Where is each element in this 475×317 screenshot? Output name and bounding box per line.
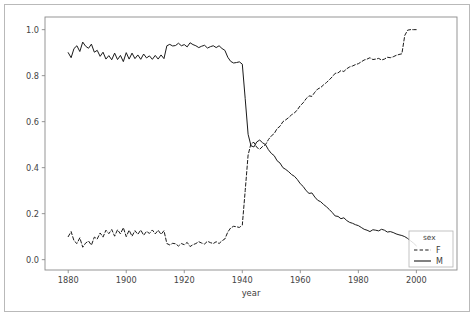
legend-label-f[interactable]: F [436,246,441,255]
chart-figure: 18801900192019401960198020000.00.20.40.6… [0,0,475,317]
legend-label-m[interactable]: M [436,257,443,266]
x-tick-label: 1940 [232,275,253,285]
x-tick-label: 1960 [290,275,311,285]
x-axis-title: year [242,288,261,298]
y-tick-label: 0.6 [26,117,39,127]
x-tick-label: 1900 [116,275,137,285]
series-line-f [68,30,416,248]
series-line-m [68,42,416,246]
y-tick-label: 0.0 [26,255,39,265]
x-tick-label: 1880 [58,275,79,285]
x-tick-label: 2000 [406,275,427,285]
y-tick-label: 0.2 [26,209,39,219]
y-tick-label: 0.4 [26,163,39,173]
line-chart: 18801900192019401960198020000.00.20.40.6… [0,0,475,317]
x-tick-label: 1980 [348,275,369,285]
legend-title: sex [423,233,436,242]
y-tick-label: 1.0 [26,25,39,35]
x-tick-label: 1920 [174,275,195,285]
y-tick-label: 0.8 [26,71,39,81]
